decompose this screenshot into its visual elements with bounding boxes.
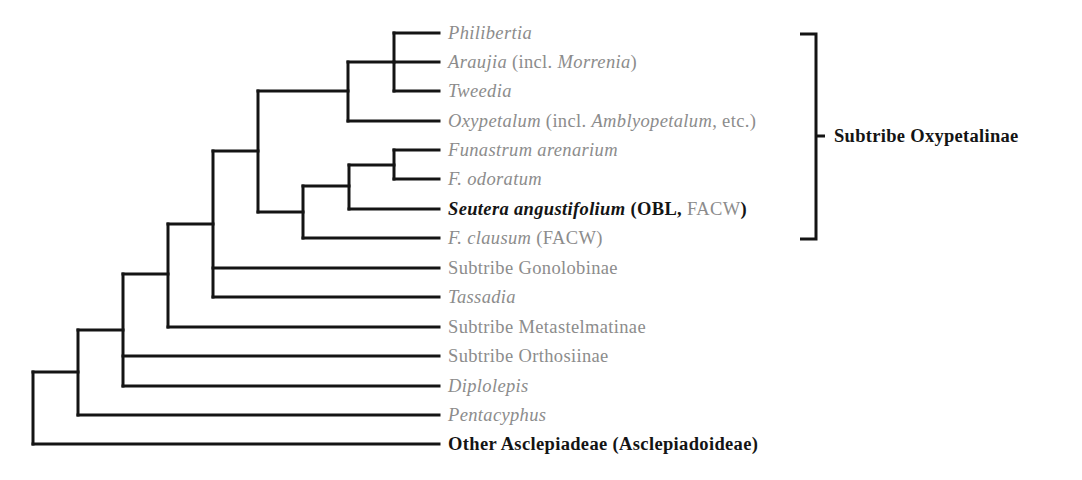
leaf-text: (incl. [507, 52, 558, 72]
leaf-text: ( [626, 199, 638, 219]
leaf-label-oxypetalum: Oxypetalum (incl. Amblyopetalum, etc.) [448, 110, 756, 132]
leaf-label-tassadia: Tassadia [448, 286, 516, 308]
clade-label-oxypetalinae: Subtribe Oxypetalinae [834, 124, 1019, 148]
leaf-label-araujia: Araujia (incl. Morrenia) [448, 51, 637, 73]
leaf-text: ) [631, 52, 638, 72]
leaf-text: (incl. [541, 111, 592, 131]
leaf-label-pentacyphus: Pentacyphus [448, 404, 546, 426]
leaf-label-other-asclepiadeae: Other Asclepiadeae (Asclepiadoideae) [448, 433, 758, 455]
tree-branches [33, 33, 439, 444]
leaf-text: Oxypetalum [448, 111, 541, 131]
leaf-label-funastrum-arenarium: Funastrum arenarium [448, 139, 618, 161]
leaf-text: ) [741, 199, 748, 219]
leaf-text: F. clausum [448, 228, 531, 248]
leaf-text: Subtribe Orthosiinae [448, 346, 609, 366]
leaf-text: Diplolepis [448, 376, 529, 396]
leaf-label-diplolepis: Diplolepis [448, 375, 529, 397]
leaf-text: Pentacyphus [448, 405, 546, 425]
leaf-label-gonolobinae: Subtribe Gonolobinae [448, 257, 618, 279]
leaf-text: Subtribe Gonolobinae [448, 258, 618, 278]
leaf-label-tweedia: Tweedia [448, 80, 512, 102]
leaf-text: FACW [682, 199, 740, 219]
leaf-text: Tassadia [448, 287, 516, 307]
leaf-text: Tweedia [448, 81, 512, 101]
leaf-label-f-odoratum: F. odoratum [448, 168, 542, 190]
leaf-text: Amblyopetalum [591, 111, 712, 131]
leaf-text: Morrenia [558, 52, 631, 72]
leaf-label-metastelmatinae: Subtribe Metastelmatinae [448, 316, 646, 338]
leaf-label-f-clausum: F. clausum (FACW) [448, 227, 603, 249]
leaf-label-philibertia: Philibertia [448, 22, 532, 44]
leaf-text: Seutera angustifolium [448, 199, 626, 219]
leaf-text: F. odoratum [448, 169, 542, 189]
leaf-label-seutera-angustifolium: Seutera angustifolium (OBL, FACW) [448, 198, 747, 220]
leaf-text: Funastrum arenarium [448, 140, 618, 160]
leaf-text: (FACW) [531, 228, 602, 248]
leaf-text: OBL, [637, 199, 682, 219]
oxypetalinae-bracket [800, 34, 825, 239]
leaf-text: Philibertia [448, 23, 532, 43]
leaf-text: Subtribe Metastelmatinae [448, 317, 646, 337]
bracket-path [800, 34, 825, 239]
leaf-text: Araujia [448, 52, 507, 72]
leaf-label-orthosiinae: Subtribe Orthosiinae [448, 345, 609, 367]
leaf-text: Other Asclepiadeae (Asclepiadoideae) [448, 434, 758, 454]
leaf-text: , etc.) [712, 111, 756, 131]
